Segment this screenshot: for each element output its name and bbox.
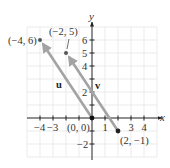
- x-axis-label: x: [159, 111, 165, 123]
- point-label-neg2-5: (−2, 5): [49, 26, 78, 38]
- x-tick-label: 4: [142, 122, 148, 133]
- point-neg4-6: [38, 38, 42, 42]
- leader-line: [67, 39, 69, 49]
- y-tick-label: 4: [82, 61, 88, 72]
- x-tick-label: −4: [34, 122, 46, 133]
- x-tick-label: 1: [103, 122, 108, 133]
- point-neg2-5: [64, 51, 68, 55]
- y-tick-label: −2: [77, 139, 88, 150]
- y-tick-label: 5: [82, 48, 87, 59]
- x-tick-label: −3: [47, 122, 58, 133]
- x-tick-label: 3: [129, 122, 134, 133]
- point-label-neg4-6: (−4, 6): [8, 35, 37, 47]
- point-label-2-neg1: (2, −1): [120, 135, 149, 147]
- vector-v-label: v: [95, 80, 101, 91]
- y-axis-label: y: [88, 10, 94, 22]
- point-2-neg1: [116, 129, 121, 134]
- vector-u-label: u: [56, 79, 62, 90]
- vector-diagram: x y −4 −3 1 3 4 6 5 4 2 −2 u v (−4, 6) (…: [0, 0, 170, 168]
- y-tick-label: 6: [82, 35, 87, 46]
- point-label-origin: (0, 0): [67, 122, 90, 134]
- point-origin: [90, 116, 95, 121]
- y-tick-label: 2: [82, 87, 87, 98]
